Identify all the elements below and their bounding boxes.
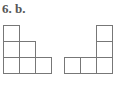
- grid-cell: [3, 41, 20, 58]
- grid-cell: [19, 57, 36, 74]
- grid-cell: [3, 57, 20, 74]
- grid-cell: [35, 57, 52, 74]
- grid-cell: [80, 57, 97, 74]
- grid-cell: [96, 57, 113, 74]
- grid-cell: [96, 25, 113, 42]
- grid-cell: [19, 41, 36, 58]
- problem-label: 6. b.: [2, 1, 25, 17]
- grid-cell: [96, 41, 113, 58]
- grid-cell: [64, 57, 81, 74]
- grid-cell: [3, 25, 20, 42]
